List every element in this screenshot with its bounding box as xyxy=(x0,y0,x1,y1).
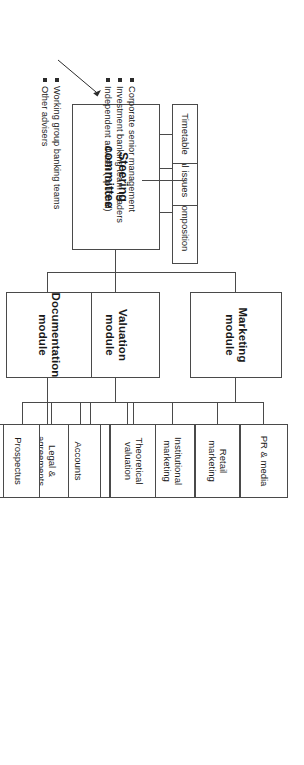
legend-documentation-module: Working group banking teams Other advise… xyxy=(39,78,63,209)
connector-marketing-bus xyxy=(128,402,264,403)
arrowhead-to-documentation-module xyxy=(93,90,101,97)
bullet-square-icon xyxy=(43,78,47,82)
diagram-canvas: Board composition Critical issues Timeta… xyxy=(0,0,304,765)
bullet-square-icon xyxy=(130,78,134,82)
legend-item-label: Other advisers xyxy=(39,86,51,146)
box-marketing-module-label: Marketing module xyxy=(223,307,249,362)
connector-documentation-to-prospectus xyxy=(22,402,23,424)
connector-root-stub xyxy=(115,250,116,272)
box-prospectus[interactable]: Prospectus xyxy=(0,424,40,498)
box-retail-marketing-label: Retail marketing xyxy=(207,440,228,482)
connector-valuation-bus-up xyxy=(116,402,134,403)
connector-marketing-to-pr-media xyxy=(263,402,264,424)
legend-item: Investment banking team leaders xyxy=(114,78,126,223)
connector-valuation-to-financial-model xyxy=(90,402,91,424)
connector-valuation-to-accounts-upper xyxy=(51,402,52,424)
legend-steering-committee: Corporate senior management Investment b… xyxy=(102,78,138,223)
box-theoretical-valuation[interactable]: Theoretical valuation xyxy=(110,424,156,498)
connector-marketing-to-pre-ipo xyxy=(127,402,128,424)
connector-documentation-bus-vertical xyxy=(23,402,81,403)
bullet-square-icon xyxy=(55,78,59,82)
box-prospectus-label: Prospectus xyxy=(13,437,24,485)
connector-documentation-to-accounts xyxy=(80,402,81,424)
connector-root-to-board-composition xyxy=(160,212,172,213)
box-due-diligence[interactable]: Due diligence xyxy=(0,424,4,498)
legend-item: Other advisers xyxy=(39,78,51,209)
legend-item: Working group banking teams xyxy=(51,78,63,209)
connector-valuation-to-theoretical-valuation xyxy=(133,402,134,424)
connector-valuation-stub xyxy=(115,378,116,402)
bullet-square-icon xyxy=(106,78,110,82)
box-pr-media-label: PR & media xyxy=(259,436,270,487)
box-timetable[interactable]: Timetable xyxy=(172,104,198,164)
legend-item: Independent adviser (optional) xyxy=(102,78,114,223)
connector-spine-to-valuation-module xyxy=(115,272,116,292)
legend-item: Corporate senior management xyxy=(126,78,138,223)
box-pr-media[interactable]: PR & media xyxy=(240,424,288,498)
box-valuation-module-label: Valuation module xyxy=(103,309,129,361)
connector-spine-to-marketing-module xyxy=(235,272,236,292)
leader-line-steering-committee xyxy=(142,180,186,181)
legend-item-label: Independent adviser (optional) xyxy=(102,86,114,212)
box-accounts-label: Accounts xyxy=(73,441,84,480)
connector-marketing-stub xyxy=(235,378,236,402)
box-timetable-label: Timetable xyxy=(180,113,191,154)
connector-module-spine xyxy=(48,272,236,273)
box-institutional-marketing[interactable]: Institutional marketing xyxy=(150,424,195,498)
box-documentation-module-label: Documentation module xyxy=(36,293,62,378)
connector-root-to-timetable xyxy=(160,134,172,135)
chart-stage: Board composition Critical issues Timeta… xyxy=(0,0,304,765)
legend-item-label: Working group banking teams xyxy=(51,86,63,209)
connector-documentation-stub xyxy=(47,378,48,402)
box-marketing-module[interactable]: Marketing module xyxy=(190,292,282,378)
legend-item-label: Investment banking team leaders xyxy=(114,86,126,223)
connector-spine-to-documentation-module xyxy=(47,272,48,292)
connector-marketing-to-retail-marketing xyxy=(217,402,218,424)
connector-root-to-critical-issues xyxy=(160,168,172,169)
box-theoretical-valuation-label: Theoretical valuation xyxy=(122,438,143,485)
connector-documentation-to-legal-agreements xyxy=(47,402,48,424)
box-documentation-module[interactable]: Documentation module xyxy=(6,292,92,378)
box-retail-marketing[interactable]: Retail marketing xyxy=(195,424,240,498)
box-institutional-marketing-label: Institutional marketing xyxy=(162,437,183,485)
bullet-square-icon xyxy=(118,78,122,82)
legend-item-label: Corporate senior management xyxy=(126,86,138,212)
connector-marketing-to-institutional-marketing xyxy=(172,402,173,424)
